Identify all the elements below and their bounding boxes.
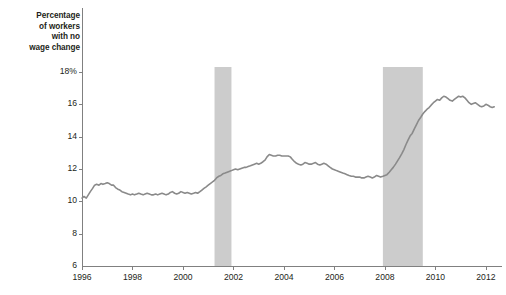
- y-axis-title-line-2: of workers: [14, 22, 80, 33]
- y-axis-title-line-3: with no: [14, 32, 80, 43]
- shaded-region-recession-2008: [383, 67, 423, 266]
- x-tick-label-2004: 2004: [264, 272, 304, 282]
- axis-ticks-group: [79, 73, 487, 271]
- shaded-regions-group: [215, 67, 423, 266]
- x-tick-label-2006: 2006: [314, 272, 354, 282]
- y-tick-label-6: 6: [43, 260, 77, 270]
- y-axis-title-line-1: Percentage: [14, 11, 80, 22]
- data-series-group: [82, 96, 494, 198]
- y-tick-label-18%: 18%: [43, 66, 77, 76]
- y-tick-label-14: 14: [43, 131, 77, 141]
- y-tick-label-12: 12: [43, 163, 77, 173]
- y-axis-title: Percentage of workers with no wage chang…: [14, 11, 80, 53]
- chart-figure: Percentage of workers with no wage chang…: [0, 0, 506, 295]
- x-tick-label-2008: 2008: [365, 272, 405, 282]
- x-tick-label-1998: 1998: [112, 272, 152, 282]
- x-tick-label-2012: 2012: [466, 272, 506, 282]
- x-tick-label-2002: 2002: [213, 272, 253, 282]
- axis-lines-group: [83, 8, 503, 267]
- x-tick-label-2010: 2010: [415, 272, 455, 282]
- y-axis-title-line-4: wage change: [14, 43, 80, 54]
- y-tick-label-16: 16: [43, 98, 77, 108]
- shaded-region-recession-2001: [215, 67, 232, 266]
- x-tick-label-1996: 1996: [62, 272, 102, 282]
- y-tick-label-10: 10: [43, 195, 77, 205]
- x-tick-label-2000: 2000: [163, 272, 203, 282]
- y-tick-label-8: 8: [43, 228, 77, 238]
- series-line-0: [82, 96, 494, 198]
